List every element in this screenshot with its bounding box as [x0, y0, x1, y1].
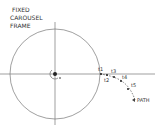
point-t4 [120, 80, 122, 82]
point-t5 [127, 88, 129, 90]
title-line-1: FIXED [12, 6, 30, 13]
label-t5: t5 [131, 82, 136, 88]
center-point [53, 72, 57, 76]
point-t2 [106, 74, 108, 76]
title-line-2: CAROUSEL [10, 14, 43, 21]
label-t3: t3 [111, 68, 116, 74]
path-label: PATH [137, 97, 150, 103]
carousel-diagram: FIXED CAROUSEL FRAME t1 t2 t3 t4 t5 PATH [0, 0, 155, 138]
title-line-3: FRAME [10, 22, 31, 29]
label-t1: t1 [98, 66, 103, 72]
point-t3 [113, 76, 115, 78]
label-t2: t2 [104, 77, 109, 83]
diagram-svg: FIXED CAROUSEL FRAME t1 t2 t3 t4 t5 PATH [0, 0, 155, 138]
point-t1 [100, 73, 102, 75]
center-marker [59, 77, 61, 79]
path-arrow-icon [132, 98, 135, 102]
label-t4: t4 [122, 74, 127, 80]
